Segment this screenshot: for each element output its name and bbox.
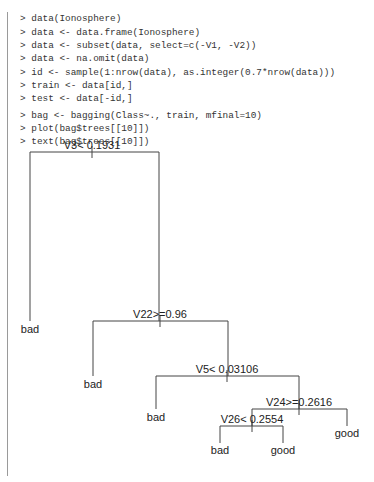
leaf-label: bad: [211, 444, 229, 456]
decision-tree-plot: V3< 0.1931 bad V22>=0.96 bad V5< 0.03106…: [0, 0, 374, 482]
split-label: V24>=0.2616: [266, 396, 332, 408]
leaf-label: bad: [147, 411, 165, 423]
split-label: V22>=0.96: [133, 308, 187, 320]
leaf-label: good: [335, 427, 359, 439]
split-label: V26< 0.2554: [221, 413, 284, 425]
leaf-label: bad: [84, 378, 102, 390]
split-label: V5< 0.03106: [196, 363, 259, 375]
split-root: V3< 0.1931: [30, 139, 159, 321]
split-label: V3< 0.1931: [64, 139, 121, 151]
split-v26: V26< 0.2554: [220, 413, 283, 443]
leaf-label: bad: [21, 323, 39, 335]
leaf-label: good: [271, 444, 295, 456]
